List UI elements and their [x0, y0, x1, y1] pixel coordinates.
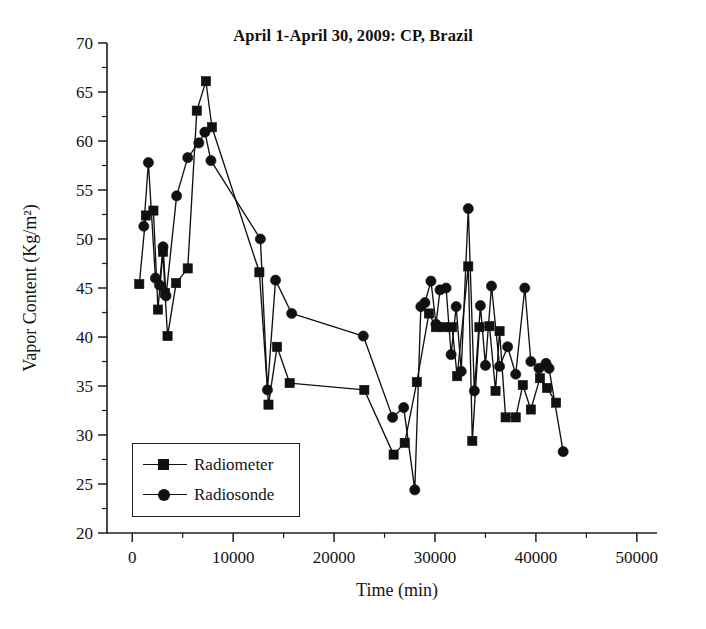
- x-tick-label: 10000: [212, 548, 255, 567]
- legend-label-radiosonde: Radiosonde: [194, 485, 274, 505]
- data-point-circle: [183, 153, 193, 163]
- data-point-circle: [475, 301, 485, 311]
- chart-figure: April 1-April 30, 2009: CP, Brazil 20253…: [0, 0, 706, 629]
- data-point-square: [201, 77, 210, 86]
- data-point-circle: [446, 350, 456, 360]
- data-point-circle: [503, 342, 513, 352]
- data-point-circle: [494, 361, 504, 371]
- data-point-circle: [287, 308, 297, 318]
- data-point-circle: [463, 204, 473, 214]
- data-point-circle: [161, 291, 171, 301]
- legend-item-radiometer: Radiometer: [143, 451, 273, 479]
- data-point-square: [501, 413, 510, 422]
- legend-marker-circle-icon: [143, 486, 187, 504]
- data-point-circle: [194, 138, 204, 148]
- data-point-circle: [441, 283, 451, 293]
- data-point-square: [511, 413, 520, 422]
- y-tick-label: 70: [76, 34, 93, 53]
- data-point-circle: [451, 302, 461, 312]
- data-point-circle: [158, 242, 168, 252]
- data-point-circle: [399, 402, 409, 412]
- chart-legend: Radiometer Radiosonde: [132, 443, 300, 517]
- y-tick-label: 25: [76, 475, 93, 494]
- data-point-square: [285, 378, 294, 387]
- data-point-circle: [511, 369, 521, 379]
- data-point-circle: [262, 385, 272, 395]
- data-point-square: [264, 400, 273, 409]
- y-tick-label: 20: [76, 524, 93, 543]
- data-point-square: [491, 386, 500, 395]
- data-point-circle: [480, 360, 490, 370]
- data-point-circle: [558, 447, 568, 457]
- y-tick-label: 45: [76, 279, 93, 298]
- data-point-circle: [139, 221, 149, 231]
- x-axis-title: Time (min): [356, 580, 438, 601]
- data-point-circle: [544, 363, 554, 373]
- data-point-square: [183, 264, 192, 273]
- data-point-square: [485, 322, 494, 331]
- data-point-circle: [431, 319, 441, 329]
- data-point-circle: [426, 276, 436, 286]
- data-point-square: [535, 374, 544, 383]
- data-point-circle: [358, 331, 368, 341]
- data-point-circle: [456, 366, 466, 376]
- legend-label-radiometer: Radiometer: [194, 455, 273, 475]
- data-point-circle: [486, 281, 496, 291]
- legend-item-radiosonde: Radiosonde: [143, 481, 274, 509]
- data-point-circle: [388, 412, 398, 422]
- data-point-circle: [154, 280, 164, 290]
- data-point-circle: [469, 386, 479, 396]
- data-point-circle: [172, 191, 182, 201]
- x-tick-label: 20000: [313, 548, 356, 567]
- y-axis-title: Vapor Content (Kg/m²): [20, 204, 41, 371]
- x-tick-label: 30000: [414, 548, 457, 567]
- data-point-circle: [526, 356, 536, 366]
- data-point-circle: [410, 485, 420, 495]
- x-tick-label: 0: [128, 548, 137, 567]
- data-point-circle: [520, 283, 530, 293]
- data-point-square: [163, 331, 172, 340]
- data-point-circle: [200, 127, 210, 137]
- data-point-square: [272, 342, 281, 351]
- data-point-square: [149, 206, 158, 215]
- series-line: [144, 132, 563, 490]
- series-radiosonde: [139, 127, 569, 495]
- data-point-square: [192, 106, 201, 115]
- data-point-circle: [255, 234, 265, 244]
- y-tick-label: 55: [76, 181, 93, 200]
- data-point-square: [468, 436, 477, 445]
- y-tick-label: 50: [76, 230, 93, 249]
- data-point-square: [551, 398, 560, 407]
- data-point-square: [360, 385, 369, 394]
- data-point-square: [518, 380, 527, 389]
- x-tick-label: 40000: [515, 548, 558, 567]
- series-radiometer: [135, 77, 561, 460]
- data-point-circle: [143, 157, 153, 167]
- data-point-square: [412, 377, 421, 386]
- data-point-square: [424, 309, 433, 318]
- data-point-square: [172, 279, 181, 288]
- data-point-square: [526, 405, 535, 414]
- data-point-circle: [420, 298, 430, 308]
- y-tick-label: 60: [76, 132, 93, 151]
- data-point-circle: [270, 275, 280, 285]
- data-point-square: [542, 383, 551, 392]
- data-point-circle: [206, 156, 216, 166]
- y-tick-label: 40: [76, 328, 93, 347]
- x-tick-label: 50000: [616, 548, 659, 567]
- data-point-square: [135, 279, 144, 288]
- y-tick-label: 30: [76, 426, 93, 445]
- data-point-square: [153, 305, 162, 314]
- plot-area: 2025303540455055606570010000200003000040…: [0, 0, 706, 629]
- y-tick-label: 35: [76, 377, 93, 396]
- y-tick-label: 65: [76, 83, 93, 102]
- legend-marker-square-icon: [143, 456, 187, 474]
- data-point-square: [389, 450, 398, 459]
